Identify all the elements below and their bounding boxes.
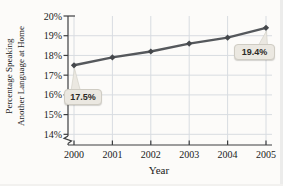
x-tick-label: 2000 (59, 149, 89, 161)
y-tick-label: 14% (32, 129, 62, 140)
x-tick-label: 2003 (174, 149, 204, 161)
y-axis-title-line2: Another Language at Home (15, 0, 27, 152)
x-tick-label: 2001 (97, 149, 127, 161)
y-tick-label: 18% (32, 50, 62, 61)
callout-pointer (71, 68, 81, 91)
chart-figure: Percentage Speaking Another Language at … (0, 0, 283, 186)
y-tick-label: 17% (32, 70, 62, 81)
data-point-marker (186, 41, 192, 47)
scan-edge-bottom (0, 184, 283, 186)
y-tick-label: 19% (32, 30, 62, 41)
data-point-marker (71, 62, 77, 68)
x-tick-label: 2002 (136, 149, 166, 161)
y-axis-break (64, 136, 72, 144)
scan-edge-right (280, 0, 283, 186)
x-tick-label: 2005 (251, 149, 281, 161)
callout-label: 17.5% (64, 89, 102, 105)
y-tick-label: 20% (32, 11, 62, 22)
data-point-marker (148, 48, 154, 54)
x-axis-title: Year (139, 164, 179, 177)
data-point-marker (263, 25, 269, 31)
y-axis-title: Percentage Speaking Another Language at … (3, 0, 29, 152)
y-axis-title-line1: Percentage Speaking (3, 0, 15, 152)
x-tick-label: 2004 (213, 149, 243, 161)
y-tick-label: 15% (32, 109, 62, 120)
y-tick-label: 16% (32, 89, 62, 100)
callout-label: 19.4% (234, 44, 275, 60)
